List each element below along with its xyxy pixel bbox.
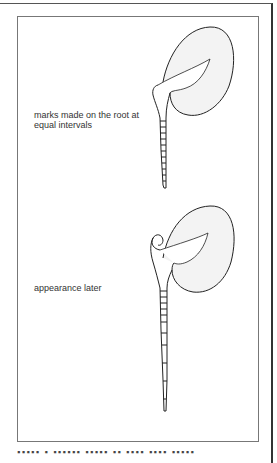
label-marks-made: marks made on the root at equal interval… bbox=[34, 110, 154, 130]
root-outline bbox=[160, 288, 167, 411]
root-outline bbox=[160, 118, 166, 188]
label-appearance-later: appearance later bbox=[34, 283, 154, 293]
figure-caption-cutoff: ▪▪▪▪▪ ▪ ▪▪▪▪▪▪ ▪▪▪▪▪ ▪▪ ▪▪▪▪ ▪▪▪▪ ▪▪▪▪▪ bbox=[17, 447, 195, 457]
seedling-initial bbox=[153, 27, 234, 188]
shoot-hook bbox=[152, 235, 163, 250]
seedling-later bbox=[151, 206, 234, 411]
